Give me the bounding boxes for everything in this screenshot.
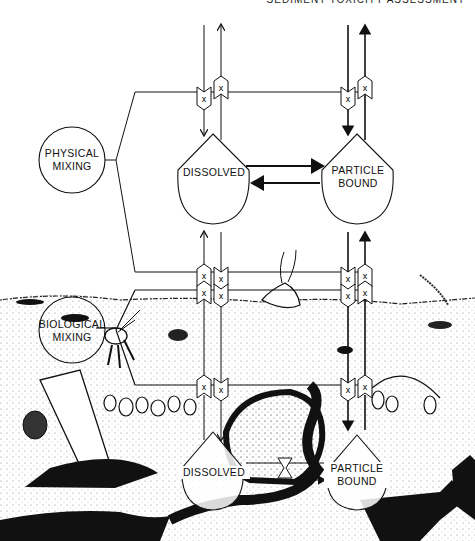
biological-mixing-line1: BIOLOGICAL bbox=[30, 318, 114, 331]
physical-mixing-label: PHYSICAL MIXING bbox=[39, 147, 105, 173]
particle-bound-line2: BOUND bbox=[322, 177, 394, 190]
particle-bound-line1: PARTICLE bbox=[322, 164, 394, 177]
biological-mixing-label: BIOLOGICAL MIXING bbox=[30, 318, 114, 344]
biological-mixing-line2: MIXING bbox=[30, 331, 114, 344]
dissolved-node bbox=[178, 134, 249, 224]
dissolved-label: DISSOLVED bbox=[178, 166, 250, 179]
physical-mixing-line1: PHYSICAL bbox=[39, 147, 105, 160]
sediment-particle-bound-line2: BOUND bbox=[324, 475, 390, 488]
tube-worm-icon bbox=[262, 250, 300, 308]
sediment-dissolved-label: DISSOLVED bbox=[178, 466, 250, 479]
particle-bound-label: PARTICLE BOUND bbox=[322, 164, 394, 190]
diagram-canvas: x x bbox=[0, 0, 475, 541]
sediment-particle-bound-line1: PARTICLE bbox=[324, 462, 390, 475]
physical-mixing-line2: MIXING bbox=[39, 160, 105, 173]
sediment-particle-bound-label: PARTICLE BOUND bbox=[324, 462, 390, 488]
